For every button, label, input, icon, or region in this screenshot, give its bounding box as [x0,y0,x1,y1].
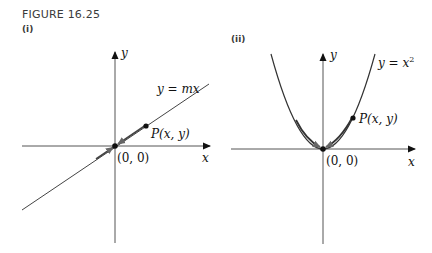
origin-label: (0, 0) [117,151,149,165]
panel-ii: y = x2 P(x, y) (0, 0) x y [231,48,415,244]
approach-arrow-right [326,118,352,147]
y-axis-label: y [329,48,337,62]
x-axis-label: x [408,155,415,169]
approach-arrow-left [296,120,320,147]
curve-label: y = mx [156,82,200,96]
approach-arrow-upper [118,125,146,144]
point-p [143,123,148,128]
point-p [350,115,355,120]
approach-arrow-lower [96,148,113,160]
figure-diagram: y = mx P(x, y) (0, 0) x y y = x2 P(x, y)… [0,0,432,253]
panel-i: y = mx P(x, y) (0, 0) x y [22,46,210,243]
point-label: P(x, y) [150,127,190,141]
x-axis-label: x [202,151,209,165]
curve-label: y = x2 [377,55,414,70]
y-axis-label: y [120,46,128,60]
origin-label: (0, 0) [326,154,358,168]
origin-point [320,146,326,152]
point-label: P(x, y) [358,112,398,126]
origin-point [112,143,118,149]
